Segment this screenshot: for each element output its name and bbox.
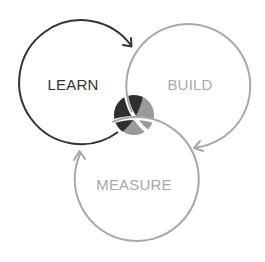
- build-label: BUILD: [167, 76, 212, 93]
- center-overlap: [72, 22, 249, 242]
- measure-label: MEASURE: [96, 176, 172, 193]
- learn-label: LEARN: [47, 76, 98, 93]
- build-measure-learn-diagram: LEARN BUILD MEASURE: [0, 0, 265, 262]
